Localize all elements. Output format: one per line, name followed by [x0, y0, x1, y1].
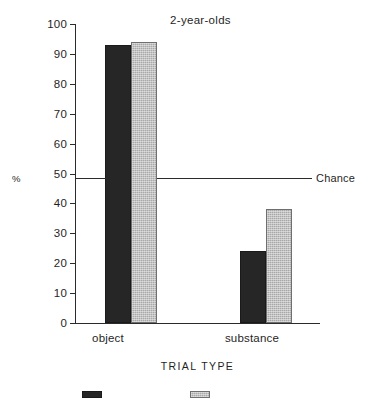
- x-axis-line: [75, 323, 320, 324]
- y-tick-label-90: 90: [54, 49, 67, 61]
- bar-object-series1: [105, 45, 131, 323]
- legend: [0, 391, 369, 401]
- y-tick-label-80: 80: [54, 79, 67, 91]
- y-tick-mark-0: [70, 323, 76, 324]
- legend-swatch-dark-icon: [82, 391, 102, 398]
- y-tick-label-50: 50: [54, 169, 67, 181]
- chance-line-right: [157, 178, 312, 179]
- y-tick-label-10: 10: [54, 288, 67, 300]
- bar-substance-series1: [240, 251, 266, 323]
- y-axis-title: %: [12, 173, 20, 184]
- y-tick-label-60: 60: [54, 139, 67, 151]
- y-tick-label-30: 30: [54, 228, 67, 240]
- chance-line-left: [75, 178, 107, 179]
- plot-area: [75, 24, 320, 323]
- y-tick-label-40: 40: [54, 198, 67, 210]
- bar-chart: 2-year-olds 100 90 80 70 60 50 40 30 20 …: [0, 0, 369, 401]
- legend-item-1: [82, 391, 109, 398]
- bar-substance-series2: [266, 209, 292, 323]
- chance-label: Chance: [316, 172, 355, 184]
- category-label-substance: substance: [212, 332, 292, 344]
- y-tick-label-70: 70: [54, 109, 67, 121]
- legend-swatch-light-icon: [190, 391, 210, 398]
- y-tick-label-20: 20: [54, 258, 67, 270]
- x-axis-title: TRIAL TYPE: [75, 360, 320, 372]
- category-label-object: object: [78, 332, 138, 344]
- y-tick-label-0: 0: [60, 318, 67, 330]
- legend-item-2: [190, 391, 217, 398]
- bar-object-series2: [131, 42, 157, 323]
- y-tick-label-100: 100: [47, 19, 67, 31]
